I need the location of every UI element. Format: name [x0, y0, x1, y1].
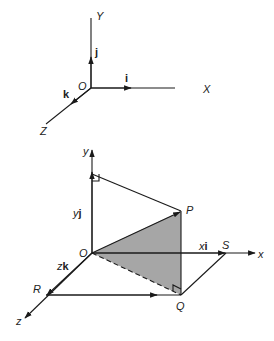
top-x-label: X — [202, 83, 211, 95]
vector-diagram: Y j O i X k Z — [0, 0, 274, 341]
top-origin-label: O — [78, 80, 87, 92]
bottom-z-label: z — [15, 315, 22, 327]
bottom-x-label: x — [257, 248, 264, 260]
top-z-label: Z — [39, 125, 48, 137]
top-y-label: Y — [96, 10, 104, 22]
bottom-y-label: y — [82, 145, 90, 157]
j-label: j — [94, 46, 98, 58]
point-Q-label: Q — [176, 300, 185, 312]
yj-label: yj — [72, 207, 82, 219]
xi-vec: i — [205, 240, 208, 252]
yj-vec: j — [78, 207, 82, 219]
zk-vec: k — [63, 260, 70, 272]
zk-label: zk — [56, 260, 70, 272]
zk-vector — [47, 253, 92, 295]
bottom-origin-label: O — [79, 247, 88, 259]
top-coordinate-frame: Y j O i X k Z — [39, 10, 211, 137]
point-S-label: S — [222, 239, 230, 251]
bottom-coordinate-frame: y yj P O xi S x zk R Q z — [15, 145, 264, 327]
point-R-label: R — [33, 283, 41, 295]
line-QS — [181, 253, 226, 295]
i-label: i — [125, 72, 128, 84]
projection-line-y-to-P — [92, 174, 181, 211]
k-label: k — [63, 88, 70, 100]
point-P-label: P — [186, 204, 194, 216]
xi-label: xi — [198, 240, 208, 252]
